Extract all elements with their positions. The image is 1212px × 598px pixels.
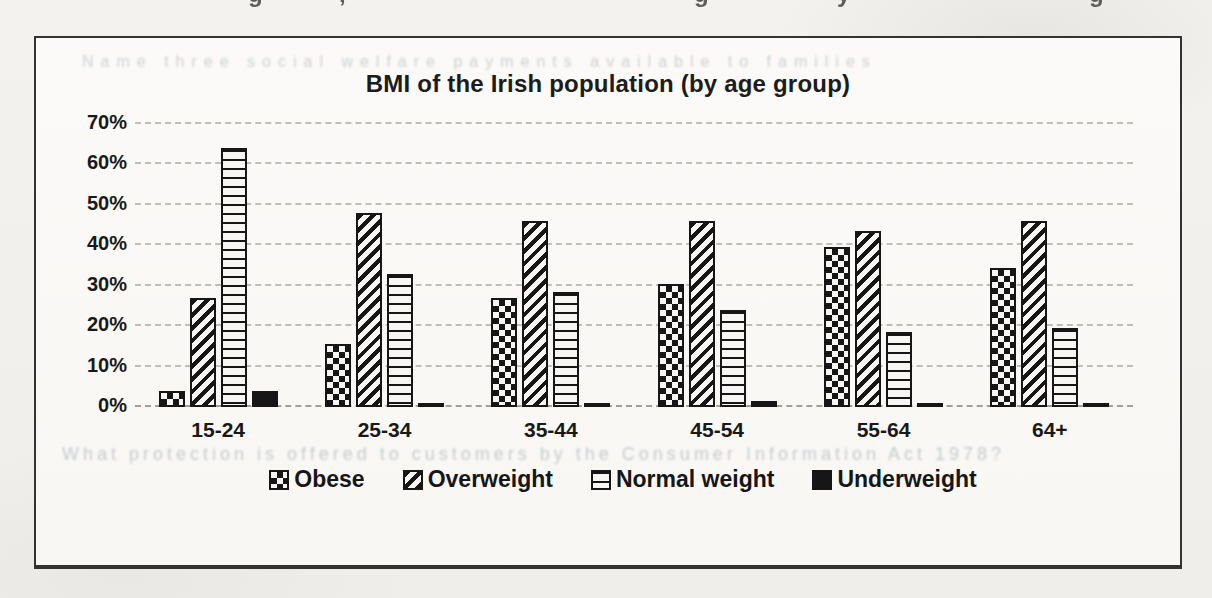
- bar-overweight-15-24: [190, 298, 216, 407]
- bar-obese-45-54: [658, 284, 684, 407]
- legend-item-overweight: Overweight: [403, 466, 553, 493]
- chart-title: BMI of the Irish population (by age grou…: [36, 70, 1180, 98]
- bar-overweight-55-64: [855, 231, 881, 407]
- bar-group-15-24: [135, 124, 301, 407]
- x-tick-label-35-44: 35-44: [468, 418, 634, 442]
- bar-normal-weight-35-44: [553, 292, 579, 407]
- y-tick-label: 70%: [67, 111, 127, 134]
- diagonal-stripe-swatch-icon: [403, 470, 423, 490]
- solid-swatch-icon: [812, 470, 832, 490]
- x-tick-label-15-24: 15-24: [135, 418, 301, 442]
- cropped-glyph: g: [694, 0, 709, 8]
- plot-area: 0%10%20%30%40%50%60%70%: [135, 124, 1133, 407]
- chart-frame: Name three social welfare payments avail…: [34, 36, 1182, 569]
- bar-obese-64+: [990, 268, 1016, 407]
- cropped-glyph: g: [1089, 0, 1104, 8]
- legend-item-obese: Obese: [269, 466, 364, 493]
- bar-obese-55-64: [824, 247, 850, 407]
- y-tick-label: 30%: [67, 273, 127, 296]
- x-tick-label-25-34: 25-34: [302, 418, 468, 442]
- checker-swatch-icon: [269, 470, 289, 490]
- cropped-glyph: g: [248, 0, 263, 8]
- x-axis-labels: 15-2425-3435-4445-5455-6464+: [135, 418, 1133, 448]
- bar-normal-weight-64+: [1052, 328, 1078, 407]
- legend-item-underweight: Underweight: [812, 466, 976, 493]
- bar-group-25-34: [301, 124, 467, 407]
- bleed-through-text-top: Name three social welfare payments avail…: [82, 53, 877, 71]
- legend-item-normal-weight: Normal weight: [591, 466, 774, 493]
- bar-obese-25-34: [325, 344, 351, 407]
- bar-overweight-25-34: [356, 213, 382, 407]
- bar-normal-weight-55-64: [886, 332, 912, 407]
- bar-underweight-25-34: [418, 403, 444, 407]
- bar-underweight-55-64: [917, 403, 943, 407]
- x-tick-label-64+: 64+: [967, 418, 1133, 442]
- bar-overweight-64+: [1021, 221, 1047, 407]
- bar-obese-35-44: [491, 298, 517, 407]
- bar-overweight-45-54: [689, 221, 715, 407]
- cropped-glyph: y: [837, 0, 850, 8]
- y-tick-label: 40%: [67, 232, 127, 255]
- horizontal-stripe-swatch-icon: [591, 470, 611, 490]
- legend-label: Normal weight: [616, 466, 774, 493]
- chart-legend: ObeseOverweightNormal weightUnderweight: [36, 466, 1180, 493]
- cropped-text-line: g,gyg: [0, 0, 1212, 10]
- bar-underweight-45-54: [751, 401, 777, 407]
- x-tick-label-45-54: 45-54: [634, 418, 800, 442]
- y-tick-label: 50%: [67, 192, 127, 215]
- x-tick-label-55-64: 55-64: [801, 418, 967, 442]
- legend-label: Underweight: [837, 466, 976, 493]
- y-tick-label: 60%: [67, 151, 127, 174]
- y-tick-label: 0%: [67, 394, 127, 417]
- bar-underweight-35-44: [584, 403, 610, 407]
- legend-label: Overweight: [428, 466, 553, 493]
- bar-overweight-35-44: [522, 221, 548, 407]
- bar-obese-15-24: [159, 391, 185, 407]
- bar-group-55-64: [800, 124, 966, 407]
- y-tick-label: 10%: [67, 354, 127, 377]
- bar-group-45-54: [634, 124, 800, 407]
- legend-label: Obese: [294, 466, 364, 493]
- bar-underweight-15-24: [252, 391, 278, 407]
- cropped-glyph: ,: [339, 0, 346, 8]
- bar-group-64+: [967, 124, 1133, 407]
- scanned-page: g,gyg Name three social welfare payments…: [0, 0, 1212, 598]
- bar-normal-weight-25-34: [387, 274, 413, 407]
- bar-normal-weight-45-54: [720, 310, 746, 407]
- bar-underweight-64+: [1083, 403, 1109, 407]
- y-tick-label: 20%: [67, 313, 127, 336]
- bar-normal-weight-15-24: [221, 148, 247, 407]
- bar-group-35-44: [468, 124, 634, 407]
